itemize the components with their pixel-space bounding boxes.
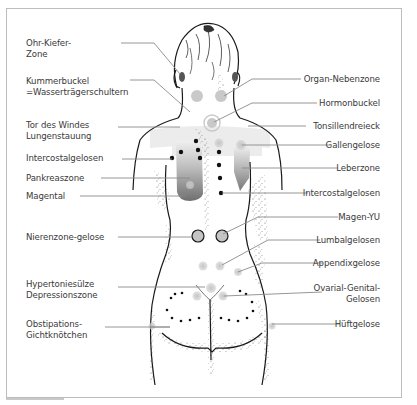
label-magental: Magental (26, 191, 65, 202)
niere-right (216, 230, 228, 242)
label-organ-nebenzone: Organ-Nebenzone (304, 74, 380, 85)
label-intercostalgelosen-right: Intercostalgelosen (303, 188, 380, 199)
organ-nebenzone-left (191, 90, 203, 102)
hormonbuckel-center (207, 118, 217, 128)
back-body-illustration (0, 0, 417, 405)
label-leberzone: Leberzone (336, 163, 380, 174)
label-tonsillendreieck: Tonsillendreieck (313, 121, 380, 132)
label-hormonbuckel: Hormonbuckel (319, 98, 380, 109)
label-pankreaszone: Pankreaszone (26, 173, 84, 184)
label-nierenzone-gelose: Nierenzone-gelose (26, 232, 104, 243)
label-huftgelose: Hüftgelose (335, 319, 380, 330)
label-ovarial-genital: Ovarial-Genital- Gelosen (314, 283, 380, 304)
label-tor-des-windes: Tor des Windes Lungenstauung (26, 120, 91, 141)
label-intercostalgelosen-left: Intercostalgelosen (26, 153, 103, 164)
niere-left (192, 230, 204, 242)
label-hypertoniesulze: Hypertoniesülze Depressionszone (26, 279, 98, 300)
label-obstipations: Obstipations- Gichtknötchen (26, 319, 87, 340)
stippling (149, 72, 270, 380)
ear-right (232, 72, 238, 82)
label-gallengelose: Gallengelose (326, 140, 380, 151)
label-lumbalgelosen: Lumbalgelosen (316, 235, 380, 246)
organ-nebenzone-right (215, 90, 227, 102)
label-magen-yu: Magen-YU (338, 212, 380, 223)
label-kummerbuckel: Kummerbuckel =Wasserträgerschultern (26, 76, 128, 97)
label-appendixgelose: Appendixgelose (313, 258, 380, 269)
label-ohr-kiefer-zone: Ohr-Kiefer- Zone (26, 38, 71, 59)
